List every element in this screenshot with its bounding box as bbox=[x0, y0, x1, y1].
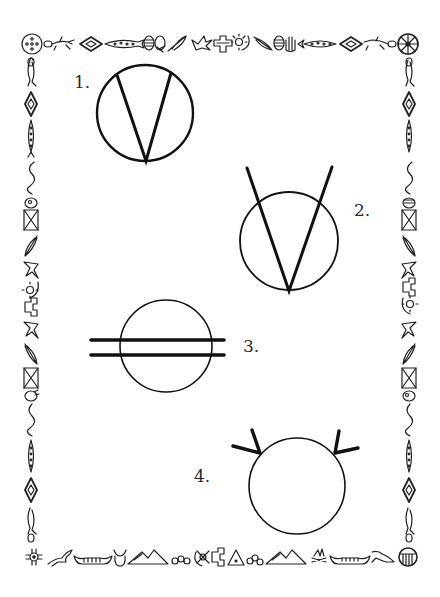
thunderbird-icon bbox=[214, 36, 232, 52]
feather-icon bbox=[254, 37, 272, 50]
decorative-border bbox=[0, 0, 440, 597]
dotted-fish-icon bbox=[407, 440, 412, 472]
lizard-icon bbox=[44, 37, 74, 50]
right-border-column bbox=[402, 58, 418, 542]
striped-egg-icon bbox=[274, 36, 284, 50]
feather-icon bbox=[168, 36, 186, 51]
bird-icon bbox=[192, 36, 212, 50]
lizard-icon bbox=[406, 508, 414, 542]
diamond-icon bbox=[403, 478, 415, 502]
worksheet-page: 1. 2. 3. 4. bbox=[0, 0, 440, 597]
sun-moon-icon bbox=[231, 34, 249, 50]
figure-4-label: 4. bbox=[194, 468, 210, 485]
running-horse-icon bbox=[48, 550, 72, 566]
diamond-icon bbox=[25, 478, 37, 502]
snake-icon bbox=[405, 162, 412, 194]
hand-icon bbox=[286, 37, 295, 52]
bird-icon bbox=[402, 262, 416, 278]
figure-3-circle-parallel-lines bbox=[91, 300, 224, 392]
zia-sun-icon bbox=[26, 549, 42, 565]
diamond-icon bbox=[340, 37, 362, 51]
dotted-fish-icon bbox=[28, 120, 34, 157]
sun-moon-icon bbox=[195, 551, 209, 566]
fish-icon bbox=[403, 391, 415, 401]
lizard-icon bbox=[364, 37, 396, 50]
hourglass-pattern-icon bbox=[402, 210, 416, 230]
thunderbird-icon bbox=[25, 298, 37, 316]
mountains-icon bbox=[128, 550, 168, 564]
hand-fish-icon bbox=[25, 198, 37, 208]
hand-icon bbox=[25, 390, 39, 401]
left-border-column bbox=[22, 58, 39, 542]
feather-icon bbox=[25, 344, 37, 364]
running-horse-icon bbox=[372, 551, 394, 562]
bird-icon bbox=[402, 322, 416, 338]
figure-1-label: 1. bbox=[74, 74, 90, 91]
medicine-wheel-icon bbox=[22, 34, 42, 54]
rocks-icon bbox=[172, 556, 190, 564]
lizard-icon bbox=[28, 508, 36, 542]
buffalo-head-icon bbox=[114, 550, 126, 566]
lizard-icon bbox=[406, 58, 414, 86]
diamond-icon bbox=[25, 92, 37, 116]
figure-4-circle-spikes bbox=[233, 430, 358, 534]
hourglass-pattern-icon bbox=[24, 210, 38, 230]
diamond-icon bbox=[403, 92, 415, 116]
rocks-icon bbox=[247, 555, 263, 565]
mountains-icon bbox=[266, 550, 306, 564]
thunderbird-icon bbox=[403, 278, 415, 296]
figure-3-label: 3. bbox=[243, 338, 259, 355]
feather-icon bbox=[25, 236, 37, 256]
bird-icon bbox=[24, 262, 38, 278]
tipi-icon bbox=[228, 550, 244, 565]
thunderbird-icon bbox=[212, 548, 224, 566]
figure-2-circle-v-extended bbox=[240, 167, 338, 291]
feather-icon bbox=[403, 344, 415, 364]
dotted-fish-icon bbox=[407, 120, 412, 152]
striped-shield-icon bbox=[399, 548, 417, 566]
striped-egg-icon bbox=[144, 36, 154, 50]
canoe-icon bbox=[74, 556, 112, 564]
sun-moon-icon bbox=[402, 296, 418, 314]
hourglass-pattern-icon bbox=[24, 368, 38, 388]
diamond-icon bbox=[80, 37, 102, 51]
feather-icon bbox=[403, 236, 415, 256]
snake-icon bbox=[405, 404, 412, 436]
lizard-icon bbox=[28, 58, 36, 86]
medicine-wheel-spokes-icon bbox=[398, 34, 418, 54]
snake-icon bbox=[27, 404, 34, 436]
beaded-shield-icon bbox=[155, 36, 165, 52]
hand-icon bbox=[403, 198, 415, 208]
figure-2-label: 2. bbox=[354, 202, 370, 219]
hourglass-pattern-icon bbox=[402, 368, 416, 388]
bird-icon bbox=[24, 322, 38, 338]
dotted-fish-icon bbox=[298, 40, 336, 48]
dotted-fish-icon bbox=[105, 40, 144, 48]
campfire-icon bbox=[312, 549, 326, 562]
snake-icon bbox=[27, 162, 34, 194]
canoe-icon bbox=[330, 556, 370, 564]
figure-1-circle-v bbox=[97, 65, 193, 161]
sun-moon-icon bbox=[22, 282, 38, 298]
dotted-fish-icon bbox=[29, 440, 34, 472]
